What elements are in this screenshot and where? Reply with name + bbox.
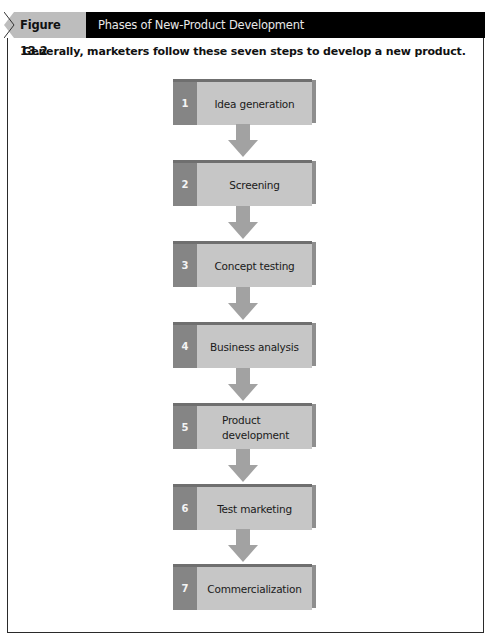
arrow-shaft	[236, 449, 250, 466]
figure-number: Figure 13.2	[20, 12, 86, 38]
down-arrow-icon	[228, 449, 258, 483]
step-right-edge	[312, 242, 316, 285]
arrow-shaft	[236, 529, 250, 546]
step-box-4: 4 Business analysis	[173, 322, 316, 368]
down-arrow-icon	[228, 368, 258, 402]
arrow-shaft	[236, 206, 250, 223]
down-arrow-icon	[228, 124, 258, 158]
step-label: Commercialization	[197, 567, 312, 610]
arrow-shaft	[236, 287, 250, 304]
step-box-1: 1 Idea generation	[173, 79, 316, 125]
step-box-2: 2 Screening	[173, 160, 316, 206]
step-label: Concept testing	[197, 244, 312, 287]
arrow-head	[228, 222, 258, 239]
step-box-6: 6 Test marketing	[173, 484, 316, 530]
step-right-edge	[312, 80, 316, 123]
step-box-7: 7 Commercialization	[173, 564, 316, 610]
step-box-3: 3 Concept testing	[173, 241, 316, 287]
figure-label-tab: Figure 13.2	[4, 12, 86, 38]
step-number: 7	[173, 567, 197, 610]
step-box-5: 5 Product development	[173, 403, 316, 449]
step-right-edge	[312, 485, 316, 528]
figure-title-bar: Phases of New-Product Development	[86, 12, 485, 38]
arrow-shaft	[236, 368, 250, 385]
step-label: Idea generation	[197, 82, 312, 125]
arrow-head	[228, 465, 258, 482]
step-label: Screening	[197, 163, 312, 206]
down-arrow-icon	[228, 529, 258, 563]
arrow-head	[228, 140, 258, 157]
down-arrow-icon	[228, 206, 258, 240]
step-number: 4	[173, 325, 197, 368]
step-label: Business analysis	[197, 325, 312, 368]
step-right-edge	[312, 404, 316, 447]
step-number: 3	[173, 244, 197, 287]
figure-header: Figure 13.2 Phases of New-Product Develo…	[4, 12, 485, 38]
arrow-head	[228, 384, 258, 401]
step-right-edge	[312, 323, 316, 366]
arrow-head	[228, 545, 258, 562]
step-label: Product development	[197, 406, 312, 449]
step-right-edge	[312, 565, 316, 608]
arrow-head	[228, 303, 258, 320]
step-number: 2	[173, 163, 197, 206]
step-number: 5	[173, 406, 197, 449]
step-number: 1	[173, 82, 197, 125]
figure-title: Phases of New-Product Development	[98, 12, 304, 38]
step-right-edge	[312, 161, 316, 204]
figure-subtitle: Generally, marketers follow these seven …	[0, 45, 488, 58]
arrow-shaft	[236, 124, 250, 141]
chevron-outline-icon	[4, 12, 18, 38]
step-label: Test marketing	[197, 487, 312, 530]
down-arrow-icon	[228, 287, 258, 321]
step-number: 6	[173, 487, 197, 530]
